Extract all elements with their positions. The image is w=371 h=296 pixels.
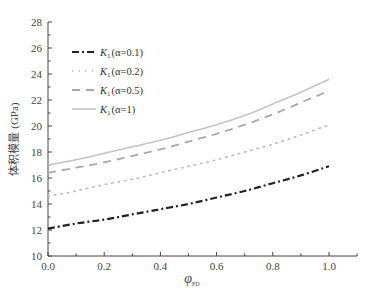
x-tick-label: 0.4 xyxy=(154,260,168,272)
x-axis-title-sub: FD xyxy=(192,281,200,287)
y-axis-ticks: 10121416182022242628 xyxy=(31,16,52,262)
y-tick-label: 22 xyxy=(31,94,42,106)
legend-label-1: K1(α=0.2) xyxy=(99,66,144,79)
data-lines xyxy=(48,79,329,229)
legend: K1(α=0.1)K1(α=0.2)K1(α=0.5)K1(α=1) xyxy=(72,47,144,117)
x-axis-ticks: 0.00.20.40.60.81.0 xyxy=(41,252,357,272)
line-chart: 10121416182022242628 0.00.20.40.60.81.0 … xyxy=(0,0,371,296)
y-tick-label: 24 xyxy=(31,68,43,80)
y-tick-label: 18 xyxy=(31,146,43,158)
x-tick-label: 0.2 xyxy=(97,260,111,272)
y-tick-label: 28 xyxy=(31,16,43,28)
y-axis-title: 体积模量 (GPa) xyxy=(7,102,21,175)
x-axis-title: φFD xyxy=(184,271,200,287)
x-tick-label: 0.6 xyxy=(210,260,224,272)
y-tick-label: 12 xyxy=(31,224,42,236)
series-line-0 xyxy=(48,166,329,228)
y-tick-label: 16 xyxy=(31,172,43,184)
y-tick-label: 20 xyxy=(31,120,43,132)
legend-label-0: K1(α=0.1) xyxy=(99,47,144,60)
legend-label-2: K1(α=0.5) xyxy=(99,85,144,98)
y-tick-label: 26 xyxy=(31,42,43,54)
x-tick-label: 0.8 xyxy=(266,260,280,272)
x-tick-label: 1.0 xyxy=(322,260,336,272)
series-line-3 xyxy=(48,79,329,165)
y-tick-label: 14 xyxy=(31,198,43,210)
legend-label-3: K1(α=1) xyxy=(99,104,136,117)
series-line-1 xyxy=(48,125,329,197)
x-tick-label: 0.0 xyxy=(41,260,55,272)
